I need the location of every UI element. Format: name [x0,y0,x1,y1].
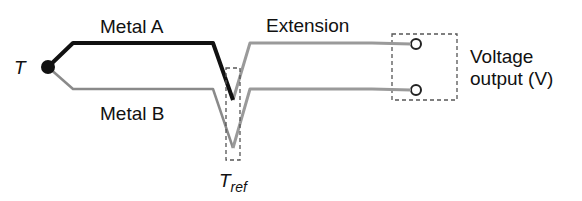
extension-upper-wire [233,43,372,100]
hot-junction-dot [41,60,55,74]
voltage-output-label-line1: Voltage [470,46,533,67]
metal-a-wire [48,43,233,100]
thermocouple-diagram: T Metal A Metal B Extension Voltage outp… [0,0,582,201]
hot-junction-label: T [14,57,27,78]
lower-terminal-icon [411,85,421,95]
reference-junction-label: Tref [219,170,249,195]
lower-terminal-lead [372,89,411,90]
reference-junction-label-sub: ref [231,179,249,195]
voltage-output-label-line2: output (V) [470,68,553,89]
extension-lower-wire [233,89,372,148]
extension-label: Extension [266,15,349,36]
upper-terminal-lead [372,43,411,44]
metal-a-label: Metal A [100,16,164,37]
upper-terminal-icon [411,39,421,49]
metal-b-label: Metal B [100,103,164,124]
